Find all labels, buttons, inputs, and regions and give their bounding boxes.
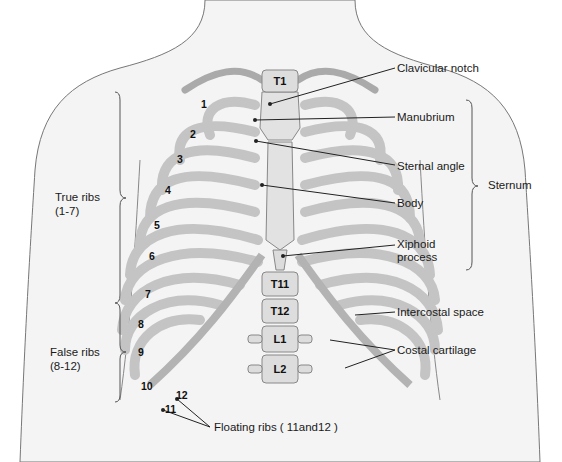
vertebra-t1: T1 [265,75,295,87]
vertebra-t12: T12 [265,305,295,317]
label-costal-cartilage: Costal cartilage [397,344,476,357]
rib-number-8: 8 [138,318,144,330]
label-true-ribs-line1: True ribs [55,191,100,204]
rib-number-11: 11 [165,403,176,415]
rib-number-5: 5 [154,219,160,231]
label-sternum: Sternum [488,179,531,192]
label-clavicular-notch: Clavicular notch [397,62,479,75]
label-sternal-angle: Sternal angle [397,160,465,173]
rib-number-2: 2 [190,128,196,140]
label-false-ribs-line2: (8-12) [50,360,81,373]
vertebra-l2: L2 [265,363,295,375]
label-xiphoid-line2: process [397,251,437,264]
label-xiphoid-line1: Xiphoid [397,238,435,251]
rib-number-12: 12 [176,389,188,401]
vertebra-t11: T11 [265,278,295,290]
rib-number-10: 10 [141,380,153,392]
label-body: Body [397,197,423,210]
label-floating-ribs: Floating ribs ( 11and12 ) [214,421,338,434]
vertebra-l1: L1 [265,333,295,345]
rib-cage-diagram: Clavicular notch Manubrium Sternal angle… [0,0,562,462]
rib-number-4: 4 [165,184,171,196]
rib-number-6: 6 [149,250,155,262]
rib-number-7: 7 [145,288,151,300]
label-false-ribs-line1: False ribs [50,346,100,359]
rib-number-1: 1 [201,98,207,110]
rib-number-9: 9 [138,346,144,358]
label-manubrium: Manubrium [397,111,455,124]
rib-number-3: 3 [177,153,183,165]
label-intercostal-space: Intercostal space [397,306,484,319]
label-true-ribs-line2: (1-7) [55,205,79,218]
